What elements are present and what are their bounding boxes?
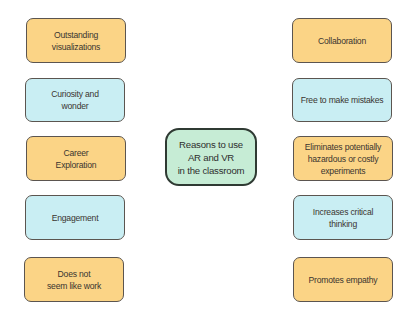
left-box-engagement: Engagement [25,195,125,240]
right-box-eliminates-hazardous-experiments: Eliminates potentially hazardous or cost… [293,136,393,181]
right-box-free-to-make-mistakes: Free to make mistakes [292,78,392,122]
center-topic: Reasons to use AR and VR in the classroo… [165,128,257,186]
left-box-outstanding-visualizations: Outstanding visualizations [26,18,126,63]
right-box-promotes-empathy: Promotes empathy [293,257,393,302]
left-box-career-exploration: Career Exploration [26,136,126,181]
left-box-does-not-seem-like-work: Does not seem like work [24,257,124,302]
left-box-curiosity-and-wonder: Curiosity and wonder [25,78,125,122]
right-box-collaboration: Collaboration [292,18,392,63]
right-box-increases-critical-thinking: Increases critical thinking [293,195,393,240]
